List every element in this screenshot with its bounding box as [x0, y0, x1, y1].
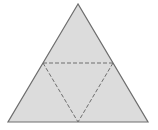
diagram-canvas: [0, 0, 158, 130]
outer-triangle: [8, 4, 148, 122]
tetrahedron-net-figure: [0, 0, 158, 130]
